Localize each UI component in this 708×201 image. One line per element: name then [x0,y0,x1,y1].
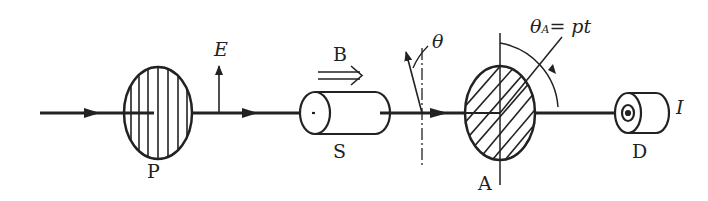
polarizer-p [124,60,192,170]
diagram-svg [0,0,708,201]
sample-cylinder-s [300,92,390,134]
beam-arrow-icon [84,108,100,118]
label-s: S [333,142,346,161]
label-theta: θ [432,32,443,51]
label-a: A [478,174,492,193]
label-e: E [214,40,228,59]
beam-arrow-icon [430,108,448,118]
label-theta-a: θA= pt [530,17,591,36]
detector-d [615,93,669,133]
theta-arc [413,46,428,68]
diagram-canvas: P E B S θ A θA= pt D I [0,0,708,201]
rotated-polarization-arrow-icon [406,52,422,113]
label-d: D [632,142,647,161]
b-field-double-arrow-icon [318,66,362,85]
label-b: B [333,45,347,64]
label-i: I [676,98,684,117]
rotation-arrow-icon [548,64,556,74]
beam-arrow-icon [242,108,258,118]
analyzer-axis-line [500,37,562,113]
label-p: P [147,162,160,181]
